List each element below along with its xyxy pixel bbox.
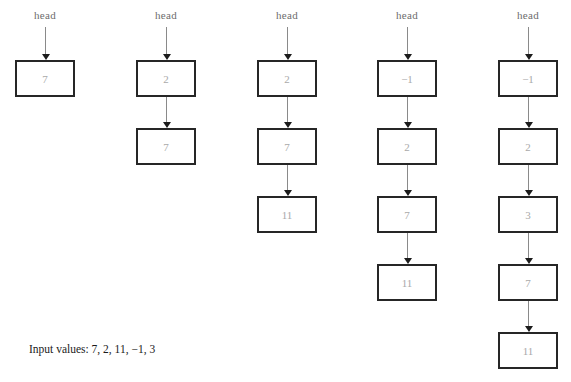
list-node-value: 7: [284, 141, 290, 153]
head-pointer-arrow: [45, 27, 46, 60]
list-node: 2: [257, 60, 317, 97]
next-pointer-arrow: [528, 233, 529, 264]
list-node: −1: [377, 60, 437, 97]
head-pointer-arrow: [407, 27, 408, 60]
arrow-shaft: [287, 27, 288, 55]
head-label: head: [242, 9, 332, 22]
list-node-value: −1: [401, 73, 413, 85]
list-node: 2: [377, 128, 437, 165]
next-pointer-arrow: [166, 97, 167, 128]
list-node: 11: [257, 196, 317, 233]
head-pointer-arrow: [166, 27, 167, 60]
arrow-shaft: [528, 165, 529, 191]
arrow-shaft: [407, 165, 408, 191]
arrow-shaft: [287, 165, 288, 191]
list-node: 7: [136, 128, 196, 165]
arrow-shaft: [528, 27, 529, 55]
next-pointer-arrow: [528, 301, 529, 332]
next-pointer-arrow: [287, 97, 288, 128]
next-pointer-arrow: [528, 97, 529, 128]
next-pointer-arrow: [287, 165, 288, 196]
list-node: 7: [377, 196, 437, 233]
next-pointer-arrow: [407, 233, 408, 264]
list-node-value: 2: [163, 73, 169, 85]
list-node: −1: [498, 60, 558, 97]
list-node-value: 7: [525, 277, 531, 289]
list-node: 2: [498, 128, 558, 165]
list-node-value: −1: [522, 73, 534, 85]
list-node-value: 7: [163, 141, 169, 153]
head-pointer-arrow: [287, 27, 288, 60]
list-node: 7: [498, 264, 558, 301]
arrow-shaft: [45, 27, 46, 55]
list-node: 11: [377, 264, 437, 301]
arrow-shaft: [166, 97, 167, 123]
list-node-value: 3: [525, 209, 531, 221]
list-node-value: 2: [404, 141, 410, 153]
arrow-shaft: [407, 97, 408, 123]
list-node: 7: [257, 128, 317, 165]
list-node: 7: [15, 60, 75, 97]
figure-caption: Input values: 7, 2, 11, −1, 3: [29, 342, 155, 356]
list-node-value: 11: [282, 209, 293, 221]
list-node-value: 11: [523, 345, 534, 357]
list-node-value: 11: [402, 277, 413, 289]
arrow-shaft: [528, 233, 529, 259]
head-label: head: [362, 9, 452, 22]
list-node-value: 7: [42, 73, 48, 85]
next-pointer-arrow: [528, 165, 529, 196]
next-pointer-arrow: [407, 97, 408, 128]
arrow-shaft: [528, 97, 529, 123]
list-node-value: 7: [404, 209, 410, 221]
list-node-value: 2: [525, 141, 531, 153]
list-node-value: 2: [284, 73, 290, 85]
next-pointer-arrow: [407, 165, 408, 196]
head-label: head: [483, 9, 571, 22]
head-label: head: [0, 9, 90, 22]
list-node: 11: [498, 332, 558, 369]
arrow-shaft: [287, 97, 288, 123]
head-pointer-arrow: [528, 27, 529, 60]
arrow-shaft: [528, 301, 529, 327]
arrow-shaft: [166, 27, 167, 55]
head-label: head: [121, 9, 211, 22]
arrow-shaft: [407, 27, 408, 55]
list-node: 3: [498, 196, 558, 233]
list-node: 2: [136, 60, 196, 97]
arrow-shaft: [407, 233, 408, 259]
linked-list-diagram: head7head27head2711head−12711head−123711: [0, 0, 571, 382]
